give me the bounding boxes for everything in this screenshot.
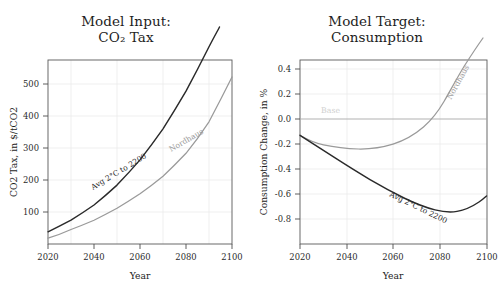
y-ticklabel: 0.4 <box>278 64 291 74</box>
x-ticklabel: 2100 <box>476 252 497 262</box>
series-line-avg2c-co2-tax <box>48 27 220 232</box>
y-axis-title-co2-tax: CO2 Tax, in $/tCO2 <box>8 107 19 197</box>
y-ticklabel: 500 <box>23 79 39 89</box>
y-ticks-co2-tax: 500 400 300 200 100 <box>23 79 48 217</box>
x-ticks-co2-tax: 2020 2040 2060 2080 2100 <box>37 244 242 262</box>
x-ticklabel: 2060 <box>382 252 403 262</box>
panel-title-consumption: Model Target: Consumption <box>251 13 503 45</box>
x-ticklabel: 2020 <box>289 252 310 262</box>
y-axis-title-consumption: Consumption Change, in % <box>258 88 269 215</box>
y-ticklabel: 100 <box>23 207 39 217</box>
figure-container: Model Input: CO₂ Tax <box>0 0 503 286</box>
y-ticklabel: -0.6 <box>275 189 291 199</box>
x-axis-title-consumption: Year <box>382 270 404 281</box>
y-ticklabel: 200 <box>23 175 39 185</box>
y-ticklabel: 0.2 <box>278 89 291 99</box>
curve-label-avg2c-consumption: Avg 2°C to 2200 <box>387 189 449 225</box>
panel-title-line1: Model Target: <box>328 13 426 29</box>
x-ticklabel: 2100 <box>221 252 242 262</box>
panel-title-line1: Model Input: <box>81 13 171 29</box>
panel-co2-tax: Model Input: CO₂ Tax <box>0 0 252 286</box>
plot-frame-co2-tax <box>48 60 232 244</box>
x-ticklabel: 2080 <box>429 252 450 262</box>
x-axis-title-co2-tax: Year <box>129 270 151 281</box>
x-ticklabel: 2040 <box>83 252 104 262</box>
x-ticklabel: 2020 <box>37 252 58 262</box>
panel-consumption: Model Target: Consumption <box>251 0 503 286</box>
x-ticklabel: 2080 <box>175 252 196 262</box>
curve-label-nordhaus-co2-tax: Nordhaus <box>168 127 205 154</box>
y-ticklabel: 0.0 <box>278 114 291 124</box>
panel-title-line2: CO₂ Tax <box>0 29 252 45</box>
y-ticklabel: -0.4 <box>275 164 291 174</box>
panel-title-co2-tax: Model Input: CO₂ Tax <box>0 13 252 45</box>
x-ticks-consumption: 2020 2040 2060 2080 2100 <box>289 244 497 262</box>
y-ticklabel: 400 <box>23 111 39 121</box>
y-ticklabel: -0.8 <box>275 214 291 224</box>
y-ticks-consumption: 0.4 0.2 0.0 -0.2 -0.4 -0.6 -0.8 <box>275 64 300 224</box>
x-ticklabel: 2060 <box>129 252 150 262</box>
panel-title-line2: Consumption <box>251 29 503 45</box>
curve-label-avg2c-co2-tax: Avg 2°C to 2200 <box>89 151 149 192</box>
gridlines-co2-tax <box>48 60 232 244</box>
y-ticklabel: -0.2 <box>275 139 291 149</box>
x-ticklabel: 2040 <box>336 252 357 262</box>
y-ticklabel: 300 <box>23 143 39 153</box>
reference-line-label-base: Base <box>321 106 340 115</box>
